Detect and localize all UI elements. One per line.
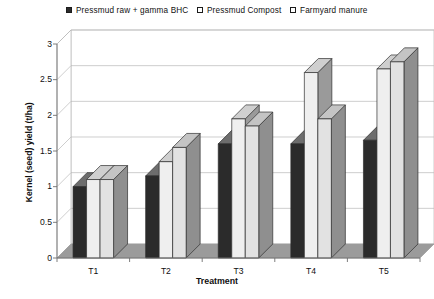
y-axis-title: Kernel (seed) yield (t/ha): [25, 67, 34, 237]
x-tick-label-t3: T3: [233, 267, 243, 276]
x-tick-label-t4: T4: [306, 267, 316, 276]
bar-chart: Pressmud raw + gamma BHC Pressmud Compos…: [0, 0, 434, 299]
plot-area: 00.511.522.53 T1T2T3T4T5 Kernel (seed) y…: [0, 0, 434, 299]
x-tick-label-t1: T1: [88, 267, 98, 276]
x-axis-ticks: T1T2T3T4T5: [0, 0, 434, 299]
x-axis-title: Treatment: [0, 277, 434, 286]
x-tick-label-t2: T2: [161, 267, 171, 276]
x-tick-label-t5: T5: [379, 267, 389, 276]
